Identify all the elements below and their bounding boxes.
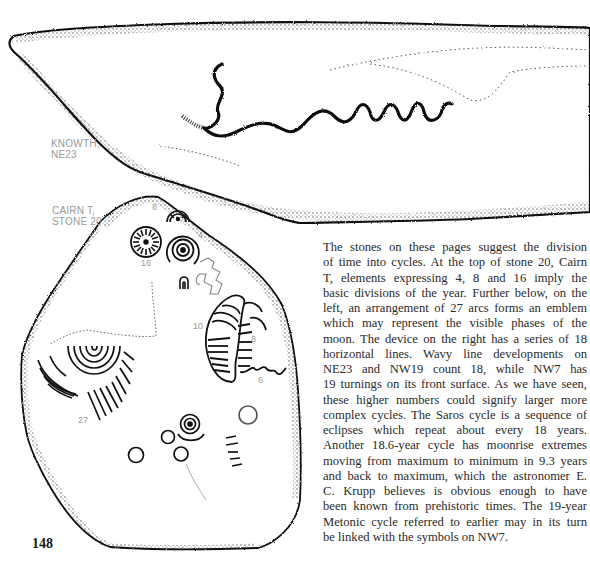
label-8-right: 8 xyxy=(251,334,256,344)
paragraph-line: and back to maximum, which the astronome… xyxy=(323,469,587,484)
label-8-top: 8 xyxy=(152,202,157,212)
page-number: 148 xyxy=(32,536,53,552)
paragraph-line: T, elements expressing 4, 8 and 16 imply… xyxy=(323,271,587,286)
label-16: 16 xyxy=(141,258,151,268)
caption-knowth-line2: NE23 xyxy=(51,149,100,160)
paragraph-line: NE23 and NW19 count 18, while NW7 has xyxy=(323,362,587,377)
sun-16-rays-symbol xyxy=(131,227,161,257)
caption-knowth-line1: KNOWTH, xyxy=(51,138,100,149)
paragraph-line: left, an arrangement of 27 arcs forms an… xyxy=(323,301,587,316)
paragraph-line: C. Krupp believes is obvious enough to h… xyxy=(323,484,587,499)
paragraph-line: of time into cycles. At the top of stone… xyxy=(323,255,587,270)
paragraph-line: basic divisions of the year. Further bel… xyxy=(323,286,587,301)
paragraph-line: horizontal lines. Wavy line developments… xyxy=(323,347,587,362)
paragraph-line: be linked with the symbols on NW7. xyxy=(323,530,587,545)
paragraph-line: these higher numbers could signify large… xyxy=(323,393,587,408)
label-4: 4 xyxy=(198,230,203,240)
paragraph-line: eclipses which repeat about every 18 yea… xyxy=(323,423,587,438)
caption-cairn-line2: STONE 20 xyxy=(52,216,102,227)
paragraph-line: complex cycles. The Saros cycle is a seq… xyxy=(323,408,587,423)
paragraph-line: moon. The device on the right has a seri… xyxy=(323,332,587,347)
paragraph-line: moving from maximum to minimum in 9.3 ye… xyxy=(323,454,587,469)
paragraph-line: Metonic cycle referred to earlier may in… xyxy=(323,515,587,530)
knowth-ne23-stone xyxy=(10,22,590,223)
caption-cairn-t-stone-20: CAIRN T, STONE 20 xyxy=(52,205,102,227)
label-27: 27 xyxy=(78,415,88,425)
label-6: 6 xyxy=(258,375,263,385)
cairn-t-stone-20 xyxy=(21,197,301,550)
paragraph-line: Another 18.6-year cycle has moonrise ext… xyxy=(323,438,587,453)
book-page: KNOWTH, NE23 CAIRN T, STONE 20 8 4 16 10… xyxy=(0,0,590,561)
label-10: 10 xyxy=(193,321,203,331)
caption-knowth-ne23: KNOWTH, NE23 xyxy=(51,138,100,160)
paragraph-line: been known from prehistoric times. The 1… xyxy=(323,499,587,514)
paragraph-line: The stones on these pages suggest the di… xyxy=(323,240,587,255)
paragraph-line: which may represent the visible phases o… xyxy=(323,316,587,331)
caption-cairn-line1: CAIRN T, xyxy=(52,205,102,216)
body-paragraph: The stones on these pages suggest the di… xyxy=(323,240,587,545)
paragraph-line: 19 turnings on its front surface. As we … xyxy=(323,377,587,392)
